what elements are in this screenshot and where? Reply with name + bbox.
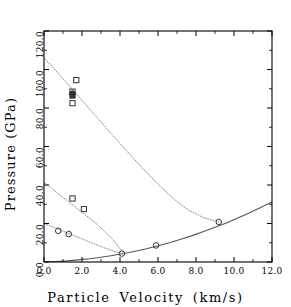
xtick-label-2: 4.0	[112, 266, 127, 276]
data-point-0	[74, 77, 79, 82]
ytick-label-3: 60.0	[35, 147, 45, 168]
xtick-label-4: 8.0	[188, 266, 203, 276]
y-axis-title: Pressure (GPa)	[3, 96, 18, 210]
ytick-label-2: 40.0	[35, 185, 45, 206]
xtick-label-1: 2.0	[74, 266, 89, 276]
data-point-5	[70, 196, 75, 201]
ytick-label-5: 100.0	[35, 70, 45, 97]
ytick-label-4: 80.0	[35, 108, 45, 129]
y-axis-title-wrap: Pressure (GPa)	[2, 0, 18, 307]
xtick-label-6: 12.0	[261, 266, 282, 276]
x-axis-title: Particle Velocity (km/s)	[0, 290, 291, 305]
data-point-3	[70, 93, 75, 98]
data-point-4	[70, 101, 75, 106]
xtick-label-5: 10.0	[223, 266, 244, 276]
curve-2	[36, 176, 123, 253]
chart-figure: 0.0 2.0 4.0 6.0 8.0 10.0 12.0 0.0 20.0 4…	[0, 0, 291, 307]
data-point-7	[55, 228, 61, 234]
curve-3	[36, 221, 123, 254]
xtick-label-3: 6.0	[150, 266, 165, 276]
ytick-label-1: 20.0	[35, 224, 45, 245]
curve-0	[44, 202, 272, 262]
ytick-label-6: 120.0	[35, 31, 45, 58]
data-point-8	[66, 231, 72, 237]
curve-1	[36, 49, 218, 222]
axis-frame	[44, 31, 272, 262]
ytick-label-0: 0.0	[35, 262, 45, 277]
data-point-6	[81, 206, 86, 211]
